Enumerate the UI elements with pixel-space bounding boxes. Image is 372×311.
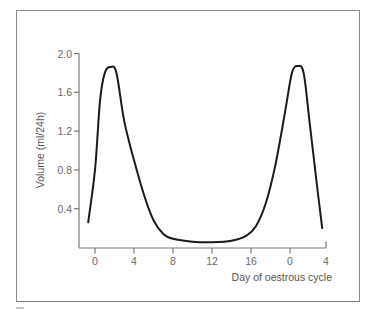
y-tick-label: 2.0 [57, 48, 72, 60]
ticks: 0.40.81.21.62.0048121604 [57, 48, 329, 267]
y-tick-label: 1.2 [57, 125, 72, 137]
x-tick-label: 0 [92, 255, 98, 267]
x-tick-label: 8 [170, 255, 176, 267]
x-axis-title: Day of oestrous cycle [232, 271, 333, 283]
y-tick-label: 0.8 [57, 164, 72, 176]
x-tick-label: 12 [206, 255, 218, 267]
x-tick-label: 4 [131, 255, 137, 267]
x-tick-label: 4 [323, 255, 329, 267]
figure-caption-cropped [16, 305, 356, 311]
volume-curve [88, 66, 322, 242]
x-tick-label: 0 [287, 255, 293, 267]
y-tick-label: 1.6 [57, 86, 72, 98]
chart: 0.40.81.21.62.0048121604 Volume (ml/24h)… [0, 0, 372, 311]
y-axis-title: Volume (ml/24h) [34, 112, 46, 188]
y-tick-label: 0.4 [57, 203, 72, 215]
x-tick-label: 16 [245, 255, 257, 267]
